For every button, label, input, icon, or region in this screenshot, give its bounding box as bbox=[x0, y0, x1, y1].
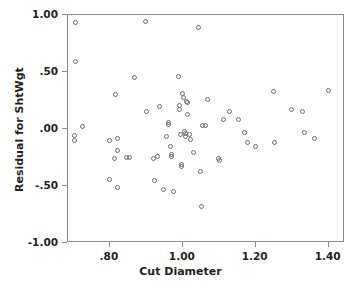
data-point bbox=[302, 130, 307, 135]
data-point bbox=[242, 130, 247, 135]
y-tick-label: -.50 bbox=[35, 180, 58, 191]
data-point bbox=[227, 109, 232, 114]
data-point bbox=[73, 59, 78, 64]
data-point bbox=[203, 123, 208, 128]
data-point bbox=[289, 107, 294, 112]
data-point bbox=[161, 187, 166, 192]
data-point bbox=[107, 177, 112, 182]
x-tick-label: 1.00 bbox=[169, 251, 195, 262]
data-point bbox=[176, 74, 181, 79]
data-point bbox=[157, 104, 162, 109]
x-tick-label: 1.40 bbox=[315, 251, 341, 262]
data-point bbox=[164, 134, 169, 139]
data-point bbox=[107, 138, 112, 143]
data-point bbox=[326, 88, 331, 93]
data-point bbox=[185, 112, 190, 117]
y-tick-label: .00 bbox=[39, 123, 58, 134]
data-point bbox=[169, 154, 174, 159]
data-point bbox=[80, 124, 85, 129]
x-tick-mark bbox=[182, 242, 183, 247]
y-tick-mark bbox=[62, 242, 67, 243]
data-point bbox=[115, 185, 120, 190]
data-point bbox=[144, 109, 149, 114]
data-point bbox=[152, 178, 157, 183]
data-point bbox=[185, 100, 190, 105]
x-tick-label: 1.20 bbox=[242, 251, 268, 262]
data-point bbox=[253, 144, 258, 149]
data-point bbox=[205, 97, 210, 102]
data-point bbox=[127, 155, 132, 160]
data-point bbox=[221, 117, 226, 122]
data-point bbox=[166, 122, 171, 127]
data-point bbox=[113, 92, 118, 97]
x-tick-label: .80 bbox=[100, 251, 119, 262]
data-point bbox=[245, 140, 250, 145]
y-tick-label: -1.00 bbox=[28, 237, 58, 248]
data-point bbox=[236, 117, 241, 122]
x-axis-title: Cut Diameter bbox=[0, 266, 361, 277]
data-point bbox=[115, 136, 120, 141]
data-point bbox=[196, 25, 201, 30]
data-point bbox=[199, 204, 204, 209]
data-point bbox=[300, 109, 305, 114]
y-axis-title: Residual for ShtWgt bbox=[14, 67, 25, 192]
data-point bbox=[168, 144, 173, 149]
plot-area bbox=[67, 14, 344, 242]
data-point bbox=[112, 156, 117, 161]
data-point bbox=[198, 169, 203, 174]
data-point bbox=[217, 158, 222, 163]
data-point bbox=[115, 148, 120, 153]
data-point bbox=[272, 140, 277, 145]
data-point bbox=[72, 138, 77, 143]
data-point bbox=[177, 107, 182, 112]
data-point bbox=[312, 136, 317, 141]
data-points-layer bbox=[68, 15, 343, 241]
x-tick-mark bbox=[109, 242, 110, 247]
data-point bbox=[191, 150, 196, 155]
data-point bbox=[188, 137, 193, 142]
y-tick-label: 1.00 bbox=[32, 9, 58, 20]
data-point bbox=[271, 89, 276, 94]
data-point bbox=[179, 164, 184, 169]
data-point bbox=[143, 19, 148, 24]
data-point bbox=[171, 189, 176, 194]
scatter-plot-figure: Residual for ShtWgt 1.00.50.00-.50-1.00 … bbox=[0, 0, 361, 286]
x-tick-mark bbox=[255, 242, 256, 247]
data-point bbox=[73, 20, 78, 25]
data-point bbox=[132, 75, 137, 80]
x-tick-mark bbox=[328, 242, 329, 247]
data-point bbox=[155, 154, 160, 159]
y-tick-label: .50 bbox=[39, 66, 58, 77]
